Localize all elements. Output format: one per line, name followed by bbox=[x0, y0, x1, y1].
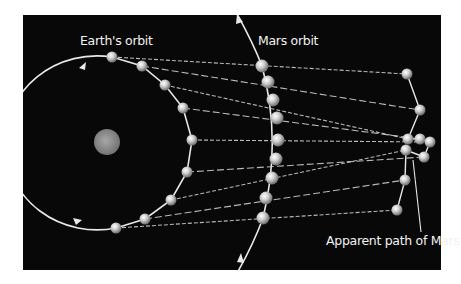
earth-position-icon bbox=[140, 214, 151, 225]
mars-position-icon bbox=[270, 153, 283, 166]
mars-orbit-label: Mars orbit bbox=[258, 33, 318, 48]
earth-position-icon bbox=[187, 135, 198, 146]
earth-position-icon bbox=[107, 52, 118, 63]
apparent-mars-position-icon bbox=[400, 175, 411, 186]
mars-position-icon bbox=[262, 76, 275, 89]
apparent-mars-position-icon bbox=[415, 134, 426, 145]
apparent-mars-position-icon bbox=[402, 69, 413, 80]
apparent-mars-position-icon bbox=[419, 152, 430, 163]
mars-orbit-arrow-icon bbox=[237, 253, 244, 263]
apparent-path-label: Apparent path of Mars bbox=[326, 233, 460, 248]
earth-position-icon bbox=[111, 223, 122, 234]
apparent-path-pointer bbox=[413, 160, 421, 232]
mars-position-icon bbox=[256, 60, 269, 73]
apparent-mars-position-icon bbox=[415, 105, 426, 116]
earth-position-icon bbox=[182, 167, 193, 178]
mars-position-icon bbox=[272, 134, 285, 147]
sight-line bbox=[116, 210, 397, 228]
sight-line bbox=[171, 150, 406, 200]
sun-icon bbox=[94, 129, 120, 155]
sight-line bbox=[192, 140, 430, 142]
sight-line bbox=[183, 108, 420, 139]
apparent-mars-position-icon bbox=[392, 205, 403, 216]
apparent-mars-position-icon bbox=[403, 134, 414, 145]
mars-position-icon bbox=[267, 94, 280, 107]
mars-position-icon bbox=[266, 172, 279, 185]
earth-orbit-segment bbox=[112, 57, 192, 228]
earth-position-icon bbox=[178, 103, 189, 114]
mars-position-icon bbox=[257, 212, 270, 225]
earth-position-icon bbox=[166, 195, 177, 206]
earth-orbit-arrow-icon bbox=[79, 62, 86, 70]
earth-position-icon bbox=[160, 80, 171, 91]
apparent-mars-position-icon bbox=[401, 145, 412, 156]
apparent-mars-position-icon bbox=[425, 137, 436, 148]
sight-line bbox=[165, 85, 408, 139]
sight-line bbox=[187, 157, 424, 172]
mars-position-icon bbox=[260, 192, 273, 205]
mars-position-icon bbox=[271, 112, 284, 125]
earth-orbit-label: Earth's orbit bbox=[80, 33, 153, 48]
sight-line bbox=[145, 180, 405, 219]
earth-position-icon bbox=[137, 61, 148, 72]
earth-orbit-arrow-icon bbox=[73, 218, 82, 225]
